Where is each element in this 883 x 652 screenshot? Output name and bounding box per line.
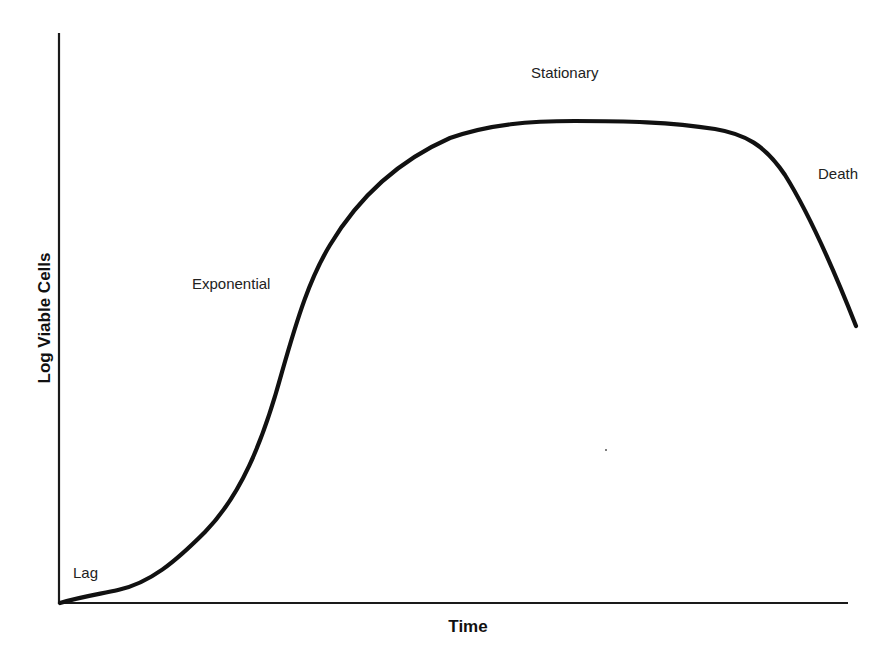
chart-canvas	[0, 0, 883, 652]
stationary-phase-label: Stationary	[531, 65, 599, 80]
scan-speck	[605, 449, 607, 451]
growth-curve-line	[60, 121, 856, 603]
growth-curve-chart: Lag Exponential Stationary Death Log Via…	[0, 0, 883, 652]
y-axis-title: Log Viable Cells	[36, 252, 53, 383]
lag-phase-label: Lag	[73, 565, 98, 580]
exponential-phase-label: Exponential	[192, 276, 270, 291]
death-phase-label: Death	[818, 166, 858, 181]
x-axis-title: Time	[448, 618, 487, 635]
